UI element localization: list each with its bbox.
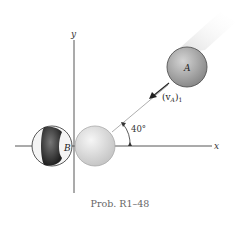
angle-arrow-icon: [121, 122, 126, 127]
ball-a-label: A: [183, 63, 191, 73]
angle-label: 40°: [131, 124, 146, 134]
impact-diagram: A B y x (vA)1 40°: [0, 0, 240, 226]
angle-arrow-icon: [128, 142, 132, 146]
x-axis-label: x: [214, 141, 219, 151]
figure-caption: Prob. R1–48: [0, 198, 240, 209]
y-axis-label: y: [70, 29, 77, 39]
angle-arc: [123, 124, 130, 146]
velocity-label: (vA)1: [162, 92, 182, 103]
ball-b-label: B: [63, 143, 71, 153]
ball-b-shading: [41, 127, 62, 166]
ball-a-contact-position: [75, 126, 115, 166]
